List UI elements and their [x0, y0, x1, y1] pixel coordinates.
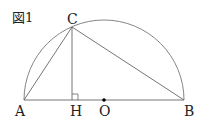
label-h: H — [70, 103, 82, 119]
right-angle-mark — [72, 94, 78, 100]
label-o: O — [99, 103, 110, 119]
figure-label: 図1 — [12, 10, 33, 25]
center-point-o — [102, 98, 106, 102]
segment-bc — [72, 27, 184, 100]
label-b: B — [184, 103, 194, 119]
geometry-figure: 図1 C A H O B — [0, 0, 207, 122]
label-c: C — [67, 11, 78, 27]
label-a: A — [14, 103, 26, 119]
semicircle-arc — [24, 20, 184, 100]
segment-ac — [24, 27, 72, 100]
